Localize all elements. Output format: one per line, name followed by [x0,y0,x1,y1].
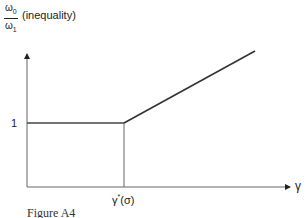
x-tick-gamma-star: γ*(σ) [112,191,134,206]
y-axis-label-suffix: (inequality) [22,10,76,21]
y-label-denominator: ω1 [4,19,18,35]
figure-caption: Figure A4 [27,206,75,218]
y-axis-label-fraction: ω0 ω1 [4,3,18,35]
x-axis-label: γ [295,181,301,192]
chart-canvas [0,0,307,218]
y-tick-1: 1 [11,118,17,129]
rising-segment [124,51,255,123]
y-label-numerator: ω0 [4,3,18,19]
